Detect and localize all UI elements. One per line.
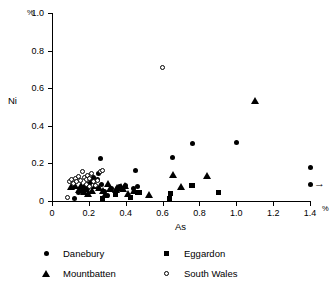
legend-label-south-wales[interactable]: South Wales <box>184 269 238 279</box>
legend-label-mountbatten[interactable]: Mountbatten <box>63 269 116 279</box>
legend-marker-eggardon <box>164 251 169 256</box>
legend: DaneburyEggardonMountbattenSouth Wales <box>0 0 336 285</box>
legend-marker-danebury <box>44 251 49 256</box>
scatter-plot-figure: % % Ni As 00.20.40.60.81.01.21.400.20.40… <box>0 0 336 285</box>
legend-marker-mountbatten <box>42 270 50 277</box>
legend-label-eggardon[interactable]: Eggardon <box>184 249 225 259</box>
legend-marker-south-wales <box>164 271 169 276</box>
legend-label-danebury[interactable]: Danebury <box>63 249 104 259</box>
